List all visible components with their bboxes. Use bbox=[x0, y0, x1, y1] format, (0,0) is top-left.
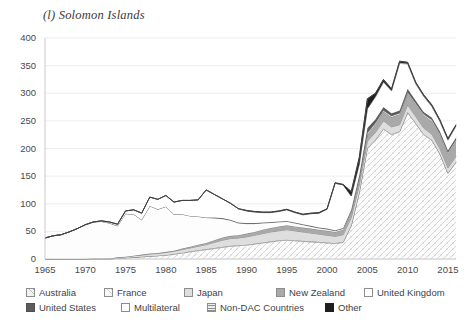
x-axis-tick-label: 1985 bbox=[186, 264, 226, 275]
legend-item-new-zealand[interactable]: New Zealand bbox=[276, 288, 364, 298]
legend-label: Multilateral bbox=[134, 303, 180, 313]
legend-swatch-icon bbox=[325, 303, 334, 312]
x-axis-tick-label: 2010 bbox=[388, 264, 428, 275]
x-axis-tick-label: 2015 bbox=[428, 264, 468, 275]
legend-label: France bbox=[117, 288, 147, 298]
chart-legend: AustraliaFranceJapanNew ZealandUnited Ki… bbox=[26, 286, 462, 316]
x-axis-tick-label: 1975 bbox=[106, 264, 146, 275]
legend-swatch-icon bbox=[26, 288, 35, 297]
x-axis-tick-label: 1980 bbox=[146, 264, 186, 275]
legend-label: New Zealand bbox=[289, 288, 345, 298]
legend-swatch-icon bbox=[104, 288, 113, 297]
x-axis-tick-label: 1965 bbox=[25, 264, 65, 275]
legend-item-non-dac-countries[interactable]: Non-DAC Countries bbox=[207, 303, 325, 313]
legend-item-other[interactable]: Other bbox=[325, 303, 362, 313]
legend-label: United States bbox=[39, 303, 96, 313]
legend-item-united-kingdom[interactable]: United Kingdom bbox=[364, 288, 445, 298]
x-axis-tick-label: 1970 bbox=[65, 264, 105, 275]
legend-swatch-icon bbox=[276, 288, 285, 297]
chart-container: (l) Solomon Islands bbox=[0, 0, 468, 331]
legend-swatch-icon bbox=[121, 303, 130, 312]
y-axis-tick-label: 350 bbox=[2, 60, 36, 71]
legend-label: Australia bbox=[39, 288, 76, 298]
y-axis-tick-label: 50 bbox=[2, 225, 36, 236]
legend-item-japan[interactable]: Japan bbox=[184, 288, 276, 298]
y-axis-tick-label: 250 bbox=[2, 115, 36, 126]
y-axis-tick-label: 0 bbox=[2, 253, 36, 264]
legend-label: Other bbox=[338, 303, 362, 313]
y-axis-tick-label: 200 bbox=[2, 143, 36, 154]
legend-row-1: AustraliaFranceJapanNew ZealandUnited Ki… bbox=[26, 286, 462, 299]
legend-item-france[interactable]: France bbox=[104, 288, 184, 298]
legend-item-multilateral[interactable]: Multilateral bbox=[121, 303, 207, 313]
x-axis-tick-label: 2005 bbox=[347, 264, 387, 275]
stacked-areas bbox=[45, 61, 456, 259]
legend-swatch-icon bbox=[26, 303, 35, 312]
x-axis-tick-label: 1995 bbox=[267, 264, 307, 275]
legend-item-united-states[interactable]: United States bbox=[26, 303, 121, 313]
legend-label: United Kingdom bbox=[377, 288, 445, 298]
y-axis-tick-label: 150 bbox=[2, 170, 36, 181]
y-axis-tick-label: 100 bbox=[2, 198, 36, 209]
legend-label: Non-DAC Countries bbox=[220, 303, 304, 313]
legend-label: Japan bbox=[197, 288, 223, 298]
legend-swatch-icon bbox=[184, 288, 193, 297]
x-axis-tick-label: 1990 bbox=[226, 264, 266, 275]
legend-swatch-icon bbox=[364, 288, 373, 297]
y-axis-tick-label: 300 bbox=[2, 87, 36, 98]
y-axis-tick-label: 400 bbox=[2, 32, 36, 43]
chart-plot-area bbox=[0, 0, 468, 331]
legend-row-2: United StatesMultilateralNon-DAC Countri… bbox=[26, 301, 462, 314]
legend-item-australia[interactable]: Australia bbox=[26, 288, 104, 298]
x-axis-tick-label: 2000 bbox=[307, 264, 347, 275]
legend-swatch-icon bbox=[207, 303, 216, 312]
